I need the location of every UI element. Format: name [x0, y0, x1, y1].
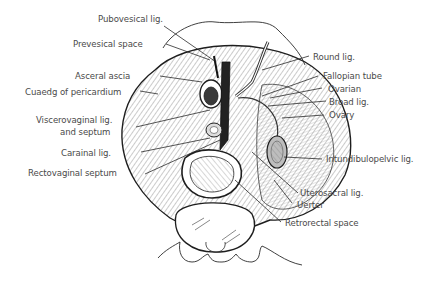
label-fallopian-tube: Fallopian tube [323, 71, 382, 81]
label-ovary: Ovary [329, 110, 354, 120]
label-cardinal-lig: Carainal lig. [61, 148, 111, 158]
label-retrorectal-space: Retrorectal space [285, 218, 358, 228]
label-viscerovaginal-lig: Viscerovaginal lig. [36, 115, 112, 125]
label-visceral-fascia: Asceral ascia [75, 71, 130, 81]
anatomy-figure: Pubovesical lig. Prevesical space Ascera… [0, 0, 434, 283]
label-viscerovaginal-septum: and septum [60, 127, 110, 137]
label-infundibulopelvic-lig: Intundibulopelvic lig. [326, 154, 413, 164]
label-uterosacral-lig: Uterosacral lig. [300, 188, 363, 198]
pelvis-illustration [0, 0, 434, 283]
label-prevesical-space: Prevesical space [73, 39, 143, 49]
label-ureter: Uerter [297, 200, 324, 210]
label-rectovaginal-septum: Rectovaginal septum [28, 168, 117, 178]
label-round-lig: Round lig. [313, 52, 355, 62]
label-pubovesical-lig: Pubovesical lig. [98, 14, 163, 24]
label-broad-lig: Broad lig. [329, 97, 369, 107]
label-cuaedg-of-pericardium: Cuaedg of pericardium [25, 87, 121, 97]
label-ovarian: Ovarian [328, 84, 361, 94]
sacral-vertebra [175, 203, 254, 252]
